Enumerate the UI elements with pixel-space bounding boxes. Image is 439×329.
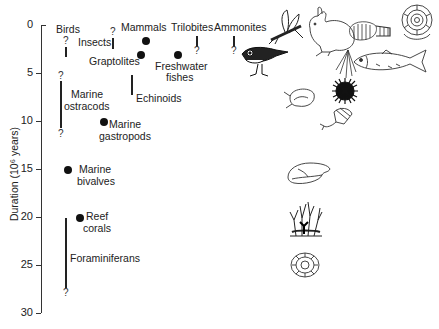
range-bar-echinoids bbox=[131, 75, 133, 95]
label-freshwater-fishes-2: fishes bbox=[166, 72, 193, 83]
y-tick-label-0: 0 bbox=[11, 18, 33, 30]
y-tick-label-5: 5 bbox=[11, 66, 33, 78]
uncertain-marker: ? bbox=[110, 26, 116, 37]
label-marine-gastropods-1: Marine bbox=[109, 119, 141, 130]
ostracod-illustration-icon bbox=[282, 84, 318, 110]
y-tick-label-10: 10 bbox=[11, 114, 33, 126]
label-marine-ostracods-2: ostracods bbox=[64, 101, 110, 112]
label-graptolites: Graptolites bbox=[89, 56, 140, 67]
range-bar-foraminiferans bbox=[65, 218, 67, 288]
y-tick-5 bbox=[36, 73, 41, 74]
fish-illustration-icon bbox=[352, 48, 428, 74]
y-tick-0 bbox=[41, 25, 46, 26]
point-marine-bivalves bbox=[64, 166, 72, 174]
label-marine-bivalves-2: bivalves bbox=[77, 176, 115, 187]
label-marine-ostracods-1: Marine bbox=[71, 89, 103, 100]
point-graptolites bbox=[137, 51, 145, 59]
uncertain-marker: ? bbox=[231, 45, 237, 56]
label-birds: Birds bbox=[56, 24, 80, 35]
uncertain-marker: ? bbox=[58, 128, 64, 139]
y-tick-20 bbox=[36, 217, 41, 218]
label-reef-corals-2: corals bbox=[83, 223, 111, 234]
bird-illustration-icon bbox=[240, 40, 290, 80]
uncertain-marker: ? bbox=[63, 35, 69, 46]
trilobite-illustration-icon bbox=[348, 18, 392, 46]
point-reef-corals bbox=[76, 214, 84, 222]
label-reef-corals-1: Reef bbox=[86, 211, 108, 222]
coral-illustration-icon bbox=[284, 196, 328, 240]
uncertain-marker: ? bbox=[58, 70, 64, 81]
bivalve-illustration-icon bbox=[284, 159, 332, 185]
y-tick-label-30: 30 bbox=[11, 306, 33, 318]
y-tick-25 bbox=[36, 265, 41, 266]
uncertain-marker: ? bbox=[194, 45, 200, 56]
y-tick-10 bbox=[36, 121, 41, 122]
range-bar-marine-ostracods bbox=[60, 81, 62, 128]
sea-urchin-illustration-icon bbox=[330, 76, 360, 106]
gastropod-illustration-icon bbox=[318, 104, 360, 134]
y-tick-15 bbox=[36, 169, 41, 170]
point-mammals bbox=[142, 37, 150, 45]
y-tick-30 bbox=[36, 313, 41, 314]
label-trilobites: Trilobites bbox=[171, 22, 213, 33]
label-mammals: Mammals bbox=[121, 22, 167, 33]
foraminiferan-illustration-icon bbox=[288, 250, 322, 280]
label-foraminiferans: Foraminiferans bbox=[70, 253, 140, 264]
y-axis bbox=[41, 25, 42, 313]
y-tick-label-25: 25 bbox=[11, 258, 33, 270]
y-axis-label: Duration (10⁶ years) bbox=[8, 124, 20, 224]
label-marine-gastropods-2: gastropods bbox=[99, 131, 151, 142]
label-echinoids: Echinoids bbox=[136, 93, 182, 104]
point-freshwater-fishes bbox=[174, 51, 182, 59]
y-tick-label-20: 20 bbox=[11, 210, 33, 222]
uncertain-marker: ? bbox=[63, 287, 69, 298]
label-ammonites: Ammonites bbox=[214, 22, 267, 33]
label-marine-bivalves-1: Marine bbox=[79, 164, 111, 175]
range-bar-birds bbox=[65, 47, 67, 57]
y-tick-label-15: 15 bbox=[11, 162, 33, 174]
range-bar-insects bbox=[112, 38, 114, 49]
point-marine-gastropods bbox=[100, 118, 108, 126]
label-insects: Insects bbox=[78, 37, 111, 48]
ammonite-illustration-icon bbox=[400, 2, 434, 42]
